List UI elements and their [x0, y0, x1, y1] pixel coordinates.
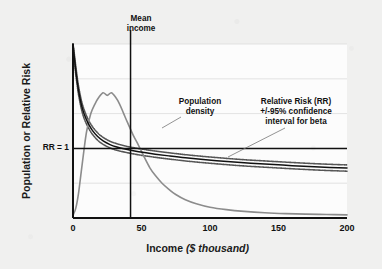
rr-equals-1-label: RR = 1 — [43, 142, 70, 152]
chart-svg: 050100150200 Population or Relative Risk… — [0, 0, 382, 269]
y-axis-title: Population or Relative Risk — [20, 63, 32, 199]
plot-area-background — [73, 44, 347, 218]
x-tick-label: 150 — [271, 223, 286, 233]
x-axis-title-main: Income — [146, 242, 183, 254]
population-density-label-line2: density — [186, 107, 215, 116]
figure-container: 050100150200 Population or Relative Risk… — [0, 0, 382, 269]
x-tick-label: 50 — [136, 223, 146, 233]
mean-income-label-line1: Mean — [131, 14, 152, 23]
x-tick-label: 100 — [202, 223, 217, 233]
relative-risk-label-line1: Relative Risk (RR) — [261, 97, 332, 106]
relative-risk-label-line3: interval for beta — [265, 117, 327, 126]
mean-income-label-line2: income — [127, 24, 156, 33]
relative-risk-label-line2: +/-95% confidence — [260, 107, 332, 116]
x-axis-title-units: ($ thousand) — [186, 242, 249, 254]
x-tick-label: 200 — [339, 223, 354, 233]
x-tick-label: 0 — [70, 223, 75, 233]
population-density-label-line1: Population — [179, 97, 221, 106]
